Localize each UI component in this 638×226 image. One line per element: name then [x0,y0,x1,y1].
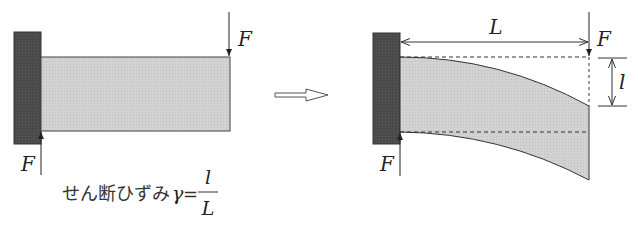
right-force-bottom-label: F [379,152,395,176]
displacement-label: l [619,70,625,94]
formula-equals: = [183,183,198,204]
left-figure: F F せん断ひずみ γ = l L [14,12,253,219]
transition-arrow-icon [275,89,328,101]
formula-prefix: せん断ひずみ [62,183,170,204]
right-wall [373,33,400,144]
left-wall [14,32,41,144]
deformed-beam [400,57,589,180]
right-figure: L F F l [373,12,627,180]
shear-strain-formula: せん断ひずみ γ = l L [62,166,218,219]
left-force-bottom-label: F [20,152,36,176]
shear-strain-diagram: F F せん断ひずみ γ = l L L F F [0,0,638,226]
left-beam [41,57,230,131]
right-force-top-label: F [596,27,612,51]
length-label: L [488,15,502,39]
left-force-top-label: F [237,27,253,51]
formula-denominator: L [201,197,215,219]
formula-numerator: l [205,166,211,188]
